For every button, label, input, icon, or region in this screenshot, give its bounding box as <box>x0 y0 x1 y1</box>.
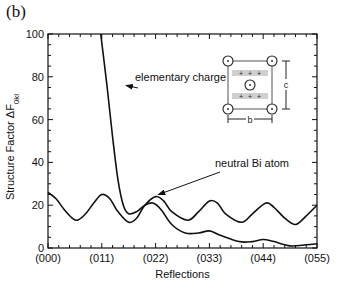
unit-cell-inset: ++++++bc <box>223 56 290 125</box>
plus-charge: + <box>257 93 261 100</box>
y-tick-label: 40 <box>32 156 44 168</box>
atom-center <box>271 108 273 110</box>
structure-factor-chart: 020406080100(000)(011)(022)(033)(044)(05… <box>0 0 339 289</box>
y-tick-label: 20 <box>32 199 44 211</box>
plot-curves <box>48 34 317 246</box>
y-axis-title: Structure Factor ΔF0kl <box>4 94 21 200</box>
x-axis-title: Reflections <box>155 268 210 280</box>
dimension-b-label: b <box>247 115 252 125</box>
x-tick-label: (055) <box>304 252 330 264</box>
plot-frame <box>48 34 317 248</box>
curve-elementary-charge <box>101 34 317 246</box>
annotation-label: elementary charge <box>135 71 226 83</box>
y-tick-label: 80 <box>32 71 44 83</box>
atom-center <box>271 60 273 62</box>
curve-neutral-bi-atom <box>48 192 317 224</box>
x-tick-label: (022) <box>143 252 169 264</box>
plus-charge: + <box>239 93 243 100</box>
y-tick-label: 60 <box>32 114 44 126</box>
atom-center <box>227 108 229 110</box>
x-tick-label: (000) <box>35 252 61 264</box>
x-tick-label: (033) <box>197 252 223 264</box>
plus-charge: + <box>248 93 252 100</box>
annotation-arrow <box>158 172 220 195</box>
plus-charge: + <box>257 70 261 77</box>
plot-annotations: elementary chargeneutral Bi atom <box>126 71 289 195</box>
plus-charge: + <box>239 70 243 77</box>
atom-center <box>249 84 251 86</box>
annotation-label: neutral Bi atom <box>215 157 289 169</box>
y-tick-label: 100 <box>26 28 44 40</box>
plot-axes: 020406080100(000)(011)(022)(033)(044)(05… <box>4 28 330 280</box>
dimension-c-label: c <box>284 80 289 90</box>
x-tick-label: (011) <box>89 252 114 264</box>
atom-center <box>227 60 229 62</box>
plus-charge: + <box>248 70 252 77</box>
x-tick-label: (044) <box>250 252 276 264</box>
annotation-arrow <box>126 85 138 88</box>
